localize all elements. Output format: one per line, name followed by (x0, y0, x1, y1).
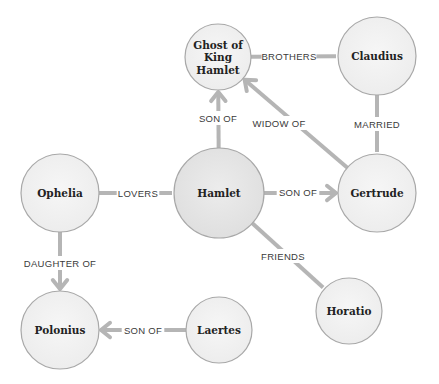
edge-label-text: FRIENDS (261, 251, 305, 262)
edge-label: BROTHERS (261, 49, 316, 63)
edge-label: SON OF (277, 185, 320, 199)
edge-label: WIDOW OF (252, 116, 307, 130)
node-laertes[interactable]: Laertes (186, 297, 252, 363)
edge-label-text: SON OF (279, 187, 317, 198)
node-horatio[interactable]: Horatio (316, 278, 382, 344)
edge-label-text: WIDOW OF (252, 118, 305, 129)
node-label: King (204, 51, 233, 63)
node-label: Ghost of (193, 39, 244, 51)
node-ophelia[interactable]: Ophelia (21, 154, 99, 232)
node-label: Gertrude (350, 187, 404, 199)
relationship-diagram: Ghost ofKingHamletClaudiusOpheliaHamletG… (0, 0, 439, 384)
node-label: Polonius (35, 324, 86, 336)
edge-label: SON OF (122, 323, 165, 337)
edge-label-text: BROTHERS (261, 51, 316, 62)
node-label: Hamlet (196, 64, 240, 76)
edge-label: MARRIED (353, 117, 402, 131)
edge-label-text: MARRIED (354, 119, 400, 130)
node-claudius[interactable]: Claudius (338, 17, 416, 95)
node-hamlet[interactable]: Hamlet (174, 148, 264, 238)
node-label: Ophelia (37, 187, 83, 199)
edge-label-text: SON OF (199, 113, 237, 124)
node-label: Claudius (351, 50, 403, 62)
node-label: Hamlet (197, 187, 241, 199)
node-label: Laertes (197, 324, 241, 336)
edge-label: SON OF (197, 111, 240, 125)
edge-label: FRIENDS (259, 249, 308, 263)
edge-label-text: SON OF (124, 325, 162, 336)
node-ghost[interactable]: Ghost ofKingHamlet (185, 24, 251, 90)
node-label: Horatio (326, 305, 371, 317)
node-polonius[interactable]: Polonius (21, 291, 99, 369)
nodes-layer: Ghost ofKingHamletClaudiusOpheliaHamletG… (21, 17, 416, 369)
edge-label-text: DAUGHTER OF (24, 258, 96, 269)
edge-label-text: LOVERS (118, 188, 158, 199)
edge-label: DAUGHTER OF (23, 256, 96, 270)
edge-label: LOVERS (117, 186, 160, 200)
node-gertrude[interactable]: Gertrude (338, 154, 416, 232)
